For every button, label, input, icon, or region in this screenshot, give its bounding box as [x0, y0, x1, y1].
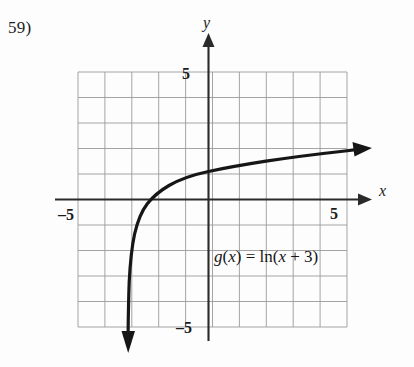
curve-right-arrowhead — [353, 142, 373, 157]
y-axis-positive-tick-label: 5 — [182, 65, 190, 82]
x-axis-arrowhead — [358, 194, 372, 206]
y-axis-arrowhead — [203, 33, 215, 47]
equation-function-name: g — [214, 247, 223, 266]
graph-canvas: x y 5 –5 5 –5 — [0, 0, 414, 367]
x-axis-positive-tick-label: 5 — [330, 205, 338, 222]
y-axis-negative-tick-label: –5 — [175, 319, 192, 336]
y-axis-label: y — [201, 14, 211, 32]
curve-down-arrowhead — [122, 331, 136, 353]
equation-inner-variable: x — [278, 247, 286, 266]
equation-ln-operator: ln — [259, 247, 272, 266]
equation-plus-sign: + — [286, 247, 304, 266]
equation-inner-close-paren: ) — [313, 247, 319, 266]
x-axis — [55, 194, 372, 206]
equation-equals-sign: = — [241, 247, 259, 266]
function-equation-annotation: g(x) = ln(x + 3) — [214, 247, 318, 267]
equation-variable: x — [228, 247, 236, 266]
function-curve — [128, 150, 356, 334]
x-axis-label: x — [378, 182, 386, 199]
x-axis-negative-tick-label: –5 — [57, 206, 74, 223]
equation-constant: 3 — [304, 247, 313, 266]
